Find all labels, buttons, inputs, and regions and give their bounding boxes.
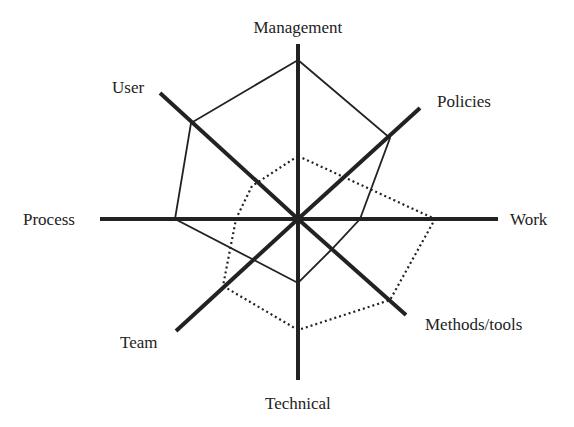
axis-label-work: Work (510, 211, 547, 228)
axis-label-process: Process (23, 211, 75, 228)
axis-label-technical: Technical (265, 395, 331, 412)
axis-line (298, 108, 420, 219)
axis-label-user: User (112, 79, 144, 96)
axis-label-policies: Policies (437, 93, 491, 110)
solid-series-polygon (175, 60, 390, 283)
axis-line (176, 219, 298, 331)
axis-label-methods-tools: Methods/tools (425, 316, 522, 333)
axis-label-team: Team (120, 334, 158, 351)
axis-label-management: Management (254, 19, 343, 36)
axis-line (160, 93, 298, 219)
radar-diagram (0, 0, 574, 427)
